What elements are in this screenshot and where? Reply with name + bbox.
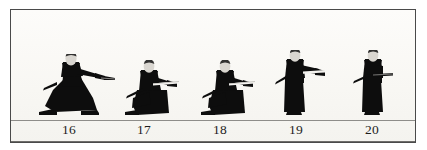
figure-20-drawing bbox=[349, 50, 411, 118]
figure-16-drawing bbox=[35, 54, 119, 118]
figure-17-drawing bbox=[119, 60, 191, 118]
figure-16 bbox=[35, 54, 119, 118]
figure-19-drawing bbox=[273, 50, 335, 118]
figure-17 bbox=[119, 60, 191, 118]
figure-label-20: 20 bbox=[352, 122, 392, 138]
figure-18 bbox=[195, 60, 267, 118]
figure-label-row: 16 17 18 19 20 bbox=[11, 121, 415, 142]
figure-label-18: 18 bbox=[200, 122, 240, 138]
figure-19 bbox=[273, 50, 335, 118]
figure-plate: 16 17 18 19 20 bbox=[10, 9, 416, 143]
figure-18-drawing bbox=[195, 60, 267, 118]
figure-label-16: 16 bbox=[49, 122, 89, 138]
figure-20 bbox=[349, 50, 411, 118]
figure-label-19: 19 bbox=[276, 122, 316, 138]
figure-label-17: 17 bbox=[124, 122, 164, 138]
panel-bottom-rule bbox=[11, 141, 415, 142]
